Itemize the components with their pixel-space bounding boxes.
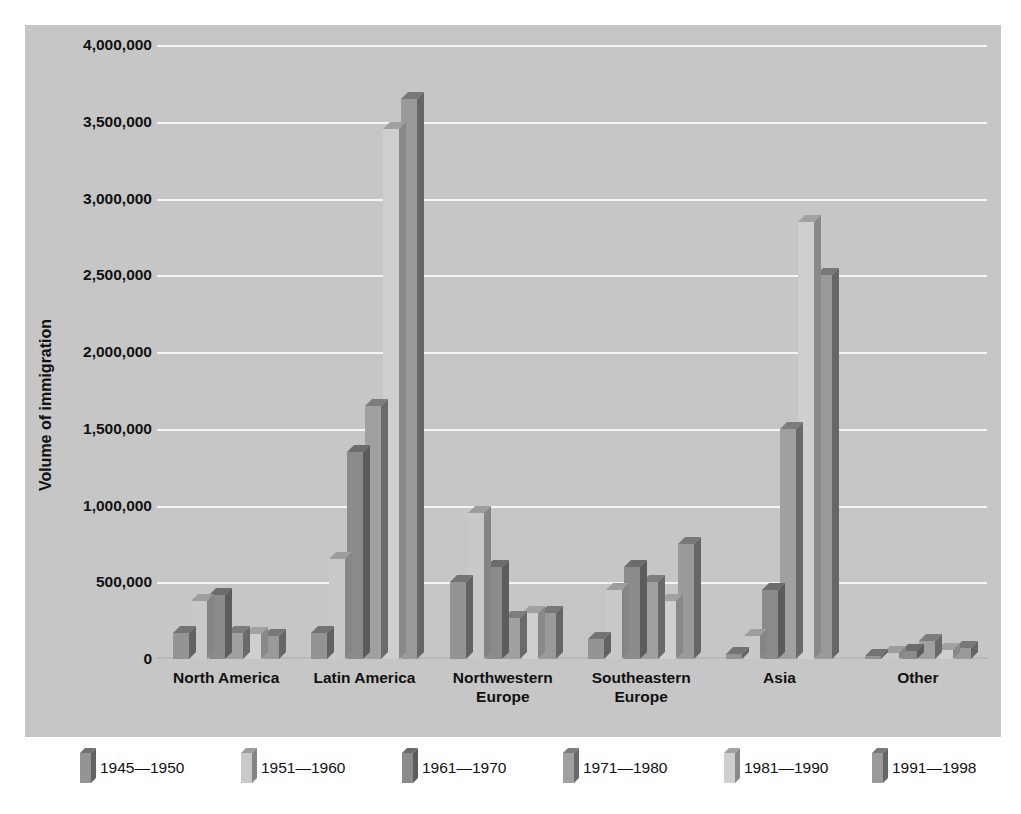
legend-item[interactable]: 1991—1998 [872, 748, 976, 788]
bar-side [502, 560, 509, 659]
bar [311, 633, 327, 659]
legend-label: 1981—1990 [744, 759, 828, 777]
bar-side [207, 594, 214, 659]
bar-side [622, 583, 629, 659]
bar-face [588, 639, 604, 659]
legend-item[interactable]: 1971—1980 [563, 748, 667, 788]
x-axis-category-label: SoutheasternEurope [572, 668, 710, 706]
y-axis-tick-label: 2,000,000 [32, 343, 152, 361]
bar-cluster [710, 45, 848, 659]
legend-label: 1961—1970 [422, 759, 506, 777]
bar-side [814, 215, 821, 659]
y-axis-tick-label: 3,500,000 [32, 113, 152, 131]
legend-swatch-face [80, 753, 91, 783]
bar-face [311, 633, 327, 659]
y-axis-tick-label: 1,500,000 [32, 420, 152, 438]
bar-cluster [157, 45, 295, 659]
bar-side [694, 537, 701, 659]
chart-figure: Volume of immigration 0500,0001,000,0001… [0, 0, 1021, 814]
bar-cluster [295, 45, 433, 659]
legend-swatch-side [91, 748, 96, 783]
legend-swatch [402, 753, 413, 783]
bar-side [279, 629, 286, 659]
legend-swatch-face [402, 753, 413, 783]
legend-item[interactable]: 1981—1990 [724, 748, 828, 788]
bar-side [381, 399, 388, 659]
bar-side [225, 588, 232, 659]
bar-cluster [572, 45, 710, 659]
legend-item[interactable]: 1945—1950 [80, 748, 184, 788]
y-axis-tick-label: 3,000,000 [32, 190, 152, 208]
bar-cluster [434, 45, 572, 659]
plot-area [157, 45, 987, 659]
y-axis-tick-label: 1,000,000 [32, 497, 152, 515]
x-axis-category-label: NorthwesternEurope [434, 668, 572, 706]
bar-face [173, 633, 189, 659]
legend-swatch [563, 753, 574, 783]
legend-label: 1971—1980 [583, 759, 667, 777]
x-axis-category-label: North America [157, 668, 295, 687]
bar-side [832, 268, 839, 659]
bar-side [676, 594, 683, 659]
legend-swatch [241, 753, 252, 783]
legend-swatch [80, 753, 91, 783]
x-axis-category-label: Other [849, 668, 987, 687]
legend-swatch-face [241, 753, 252, 783]
bar-side [399, 122, 406, 659]
x-axis-category-labels: North AmericaLatin AmericaNorthwesternEu… [157, 668, 987, 728]
legend-swatch-side [883, 748, 888, 783]
bar-side [538, 606, 545, 659]
bar-side [658, 575, 665, 659]
legend-label: 1951—1960 [261, 759, 345, 777]
chart-legend: 1945—19501951—19601961—19701971—19801981… [25, 748, 1001, 794]
bar-side [417, 92, 424, 659]
bar-side [520, 611, 527, 659]
y-axis-tick-labels: 0500,0001,000,0001,500,0002,000,0002,500… [30, 0, 152, 712]
legend-swatch-face [563, 753, 574, 783]
bar-side [640, 560, 647, 659]
y-axis-tick-label: 2,500,000 [32, 266, 152, 284]
legend-swatch-side [574, 748, 579, 783]
legend-swatch-side [735, 748, 740, 783]
bar [173, 633, 189, 659]
legend-item[interactable]: 1951—1960 [241, 748, 345, 788]
legend-swatch-side [413, 748, 418, 783]
bar [588, 639, 604, 659]
y-axis-tick-label: 4,000,000 [32, 36, 152, 54]
bar-cluster [849, 45, 987, 659]
bar-side [466, 575, 473, 659]
bar-face [726, 654, 742, 659]
bar [450, 582, 466, 659]
legend-swatch [724, 753, 735, 783]
legend-swatch-face [872, 753, 883, 783]
y-axis-tick-label: 500,000 [32, 573, 152, 591]
legend-item[interactable]: 1961—1970 [402, 748, 506, 788]
bar [726, 654, 742, 659]
bar-side [778, 583, 785, 659]
bar-face [450, 582, 466, 659]
legend-swatch [872, 753, 883, 783]
bar-side [345, 552, 352, 659]
legend-label: 1991—1998 [892, 759, 976, 777]
bar [865, 656, 881, 659]
legend-swatch-face [724, 753, 735, 783]
bar-side [363, 445, 370, 659]
x-axis-category-label: Latin America [295, 668, 433, 687]
legend-label: 1945—1950 [100, 759, 184, 777]
bar-side [556, 606, 563, 659]
legend-swatch-side [252, 748, 257, 783]
x-axis-category-label: Asia [710, 668, 848, 687]
bar-side [796, 422, 803, 659]
bar-side [484, 506, 491, 659]
bar-face [865, 656, 881, 659]
y-axis-tick-label: 0 [32, 650, 152, 668]
